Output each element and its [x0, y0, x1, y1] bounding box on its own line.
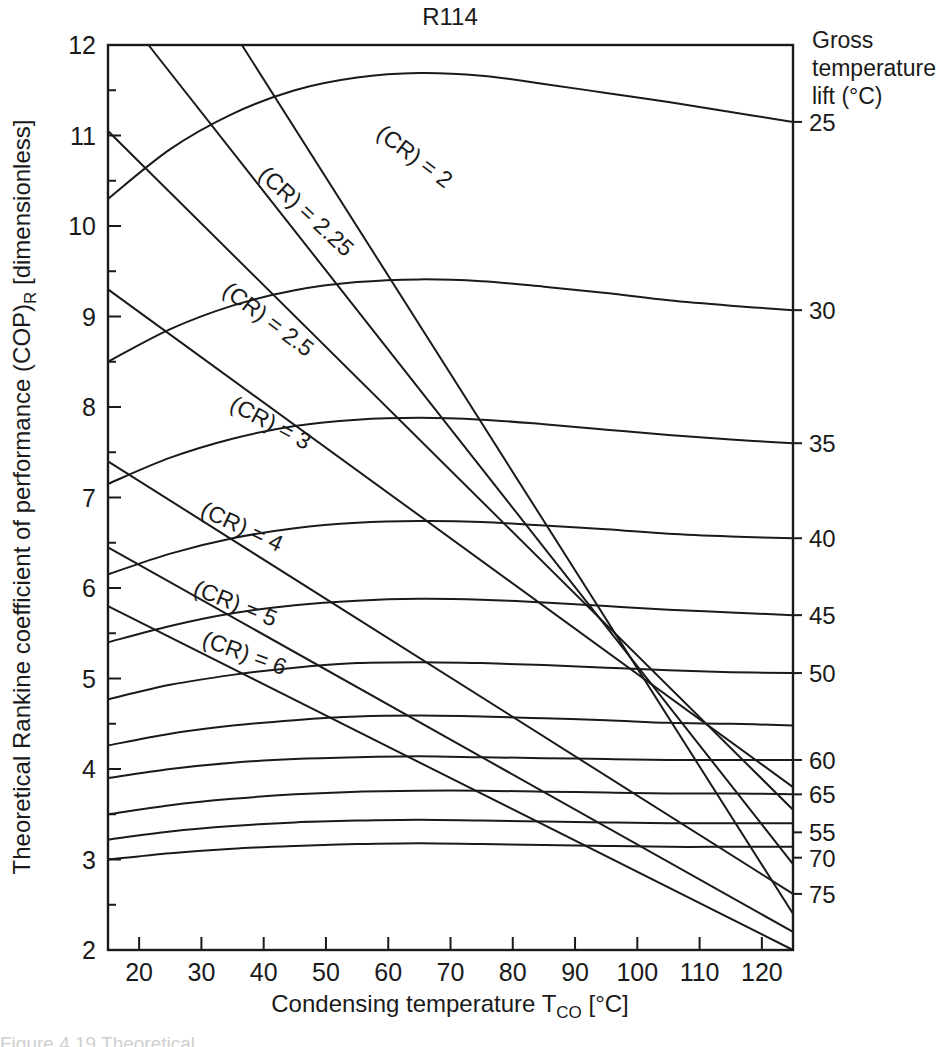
x-tick-label-60: 60 — [374, 958, 402, 986]
x-tick-label-20: 20 — [125, 958, 153, 986]
y-tick-label-5: 5 — [82, 665, 96, 693]
y-axis-ticks: 23456789101112 — [68, 31, 121, 964]
lift-curve-65 — [108, 756, 793, 778]
right-lift-label-40: 40 — [809, 525, 836, 552]
legend-header-line-1: Gross — [812, 27, 873, 53]
right-axis-lift-labels: 2530354045506065557075 — [793, 109, 836, 908]
y-tick-label-10: 10 — [68, 212, 96, 240]
y-tick-label-11: 11 — [70, 122, 96, 150]
chart-title: R114 — [422, 3, 478, 30]
y-tick-label-4: 4 — [82, 755, 96, 783]
y-tick-label-8: 8 — [82, 393, 96, 421]
x-tick-label-70: 70 — [437, 958, 465, 986]
x-tick-label-40: 40 — [250, 958, 278, 986]
lift-curve-55 — [108, 791, 793, 815]
legend-header-line-2: temperature — [812, 55, 936, 81]
y-axis-title-text: Theoretical Rankine coefficient of perfo… — [8, 120, 40, 875]
y-tick-label-12: 12 — [68, 31, 96, 59]
lift-curve-50 — [108, 662, 793, 699]
right-lift-label-35: 35 — [809, 430, 836, 457]
figure-container: R114 23456789101112 20304050607080901001… — [0, 0, 940, 1047]
x-tick-label-100: 100 — [616, 958, 658, 986]
x-tick-label-50: 50 — [312, 958, 340, 986]
gross-temperature-lift-curves — [108, 73, 793, 859]
cr-label-6: (CR) = 6 — [199, 626, 290, 680]
right-lift-label-30: 30 — [809, 297, 836, 324]
lift-curve-60 — [108, 716, 793, 746]
y-tick-label-3: 3 — [82, 846, 96, 874]
x-tick-label-110: 110 — [680, 958, 720, 986]
right-lift-label-70: 70 — [809, 845, 836, 872]
x-axis-ticks: 2030405060708090100110120 — [125, 937, 782, 986]
cr-line-2.5 — [108, 131, 793, 810]
y-tick-label-2: 2 — [82, 936, 96, 964]
cr-label-2: (CR) = 2 — [372, 120, 458, 193]
right-lift-label-55: 55 — [809, 819, 836, 846]
cr-label-5: (CR) = 5 — [190, 575, 281, 632]
lift-curve-40 — [108, 521, 793, 574]
right-lift-label-60: 60 — [809, 747, 836, 774]
right-lift-label-65: 65 — [809, 781, 836, 808]
right-lift-label-75: 75 — [809, 881, 836, 908]
x-tick-label-90: 90 — [561, 958, 589, 986]
y-tick-label-6: 6 — [82, 574, 96, 602]
x-tick-label-30: 30 — [188, 958, 216, 986]
y-tick-label-7: 7 — [82, 484, 96, 512]
lift-curve-30 — [108, 279, 793, 361]
cr-line-6 — [108, 606, 793, 950]
cr-line-2 — [242, 45, 793, 914]
x-tick-label-80: 80 — [499, 958, 527, 986]
r114-cop-chart: R114 23456789101112 20304050607080901001… — [0, 0, 940, 1047]
compression-ratio-labels: (CR) = 2(CR) = 2.25(CR) = 2.5(CR) = 3(CR… — [190, 120, 458, 681]
lift-curve-75 — [108, 843, 793, 859]
y-tick-label-9: 9 — [82, 303, 96, 331]
x-axis-title-text: Condensing temperature TCO [°C] — [271, 990, 629, 1022]
legend-header: Gross temperature lift (°C) — [812, 27, 936, 109]
cr-label-3: (CR) = 3 — [226, 391, 316, 455]
cr-line-3 — [108, 289, 793, 787]
right-lift-label-25: 25 — [809, 109, 836, 136]
x-tick-label-120: 120 — [741, 958, 783, 986]
legend-header-line-3: lift (°C) — [812, 83, 883, 109]
right-lift-label-45: 45 — [809, 602, 836, 629]
right-lift-label-50: 50 — [809, 660, 836, 687]
cr-line-2.25 — [148, 45, 793, 864]
figure-caption-partial: Figure 4.19 Theoretical... — [0, 1033, 940, 1047]
y-axis-title: Theoretical Rankine coefficient of perfo… — [8, 120, 40, 875]
x-axis-title: Condensing temperature TCO [°C] — [271, 990, 629, 1022]
